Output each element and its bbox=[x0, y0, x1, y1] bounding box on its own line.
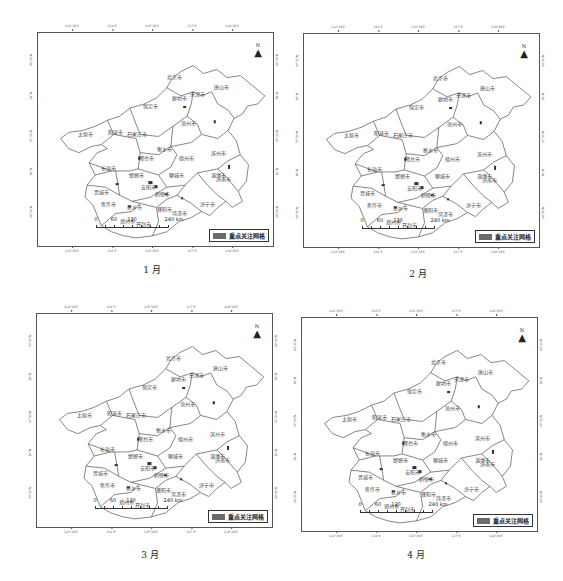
city-label: 新乡市 bbox=[391, 487, 406, 494]
latitude-tick: 34°30'N bbox=[539, 491, 543, 503]
longitude-tick: 118°30'E bbox=[489, 534, 503, 538]
city-label: 德州市 bbox=[443, 438, 458, 445]
latitude-tick: 36°N bbox=[274, 449, 278, 457]
latitude-tick: 37°30'N bbox=[275, 130, 279, 142]
city-label: 阳泉市 bbox=[372, 412, 387, 419]
city-label: 安阳市 bbox=[407, 184, 422, 191]
longitude-tick: 112°30'E bbox=[331, 25, 345, 29]
city-label: 天津市 bbox=[189, 370, 204, 377]
latitude-tick: 40°30'N bbox=[29, 54, 33, 66]
latitude-tick: 34°30'N bbox=[29, 206, 33, 218]
scale-tick-label: 60 bbox=[110, 497, 116, 503]
longitude-tick: 114°E bbox=[373, 25, 382, 29]
north-arrow: N ▲ bbox=[517, 328, 527, 343]
city-label: 济南市 bbox=[482, 175, 497, 182]
scale-tick-label: 60 bbox=[375, 501, 381, 507]
city-label: 天津市 bbox=[456, 90, 471, 97]
city-label: 长治市 bbox=[100, 445, 115, 452]
longitude-tick: 115°30'E bbox=[409, 534, 423, 538]
longitude-tick: 112°30'E bbox=[329, 309, 343, 313]
city-label: 济南市 bbox=[480, 459, 495, 466]
longitude-tick: 118°30'E bbox=[489, 309, 503, 313]
latitude-tick: 40°30'N bbox=[275, 54, 279, 66]
city-label: 聊城市 bbox=[169, 170, 184, 177]
latitude-tick: 39°N bbox=[274, 373, 278, 381]
north-arrow-icon: ▲ bbox=[253, 48, 263, 58]
city-label: 晋城市 bbox=[93, 468, 108, 475]
city-label: 焦作市 bbox=[100, 481, 115, 488]
longitude-tick: 115°30'E bbox=[411, 25, 425, 29]
city-label: 济宁市 bbox=[199, 481, 214, 488]
latitude-tick: 34°30'N bbox=[275, 206, 279, 218]
city-label: 聊城市 bbox=[433, 455, 448, 462]
city-label: 保定市 bbox=[409, 103, 424, 110]
city-label: 济南市 bbox=[216, 174, 231, 181]
city-label: 保定市 bbox=[142, 383, 157, 390]
legend-label: 重点关注网格 bbox=[228, 512, 264, 521]
latitude-tick: 40°30'N bbox=[295, 55, 299, 67]
latitude-tick: 37°30'N bbox=[293, 415, 297, 427]
city-label: 滨州市 bbox=[477, 150, 492, 157]
city-label: 长治市 bbox=[365, 449, 380, 456]
city-label: 晋城市 bbox=[94, 187, 109, 194]
city-label: 濮阳市 bbox=[157, 204, 172, 211]
latitude-tick: 36°N bbox=[28, 449, 32, 457]
city-label: 濮阳市 bbox=[156, 485, 171, 492]
longitude-tick: 117°E bbox=[186, 530, 195, 534]
city-label: 邢台市 bbox=[138, 434, 153, 441]
city-label: 菏泽市 bbox=[438, 209, 453, 216]
latitude-tick: 39°N bbox=[541, 93, 545, 101]
map-frame: 北京市唐山市天津市廊坊市保定市太原市阳泉市石家庄市沧州市衡水市邢台市德州市滨州市… bbox=[303, 33, 540, 248]
city-label: 焦作市 bbox=[365, 485, 380, 492]
north-arrow-icon: ▲ bbox=[517, 333, 527, 343]
city-label: 安阳市 bbox=[141, 183, 156, 190]
latitude-tick: 34°30'N bbox=[274, 487, 278, 499]
scale-tick-label: 120 bbox=[127, 216, 137, 222]
city-label: 濮阳市 bbox=[423, 205, 438, 212]
city-label: 保定市 bbox=[143, 102, 158, 109]
latitude-tick: 37°30'N bbox=[541, 131, 545, 143]
city-label: 邯郸市 bbox=[129, 170, 144, 177]
city-label: 阳泉市 bbox=[107, 408, 122, 415]
city-label: 阳泉市 bbox=[108, 127, 123, 134]
city-label: 滨州市 bbox=[475, 434, 490, 441]
scale-tick-label: 240 km bbox=[429, 501, 448, 507]
latitude-tick: 39°N bbox=[28, 373, 32, 381]
latitude-tick: 37°30'N bbox=[295, 131, 299, 143]
city-label: 新乡市 bbox=[126, 483, 141, 490]
city-label: 德州市 bbox=[179, 153, 194, 160]
latitude-tick: 36°N bbox=[539, 453, 543, 461]
longitude-tick: 114°E bbox=[371, 309, 380, 313]
city-label: 长治市 bbox=[367, 165, 382, 172]
longitude-tick: 112°30'E bbox=[65, 24, 79, 28]
legend: 重点关注网格 bbox=[473, 514, 533, 527]
legend: 重点关注网格 bbox=[475, 230, 535, 243]
city-label: 聊城市 bbox=[168, 451, 183, 458]
city-label: 唐山市 bbox=[214, 83, 229, 90]
latitude-tick: 40°30'N bbox=[274, 335, 278, 347]
latitude-tick: 40°30'N bbox=[541, 55, 545, 67]
city-label: 太原市 bbox=[77, 411, 92, 418]
city-label: 邯郸市 bbox=[128, 451, 143, 458]
legend-swatch bbox=[477, 518, 490, 524]
legend-swatch bbox=[213, 233, 226, 239]
city-label: 邯郸市 bbox=[395, 171, 410, 178]
city-label: 鹤壁市 bbox=[421, 190, 436, 197]
longitude-tick: 114°E bbox=[107, 24, 116, 28]
city-label: 济宁市 bbox=[200, 200, 215, 207]
longitude-tick: 115°30'E bbox=[409, 309, 423, 313]
city-label: 沧州市 bbox=[180, 400, 195, 407]
panel-caption: 3 月 bbox=[141, 548, 159, 561]
city-label: 衡水市 bbox=[423, 146, 438, 153]
latitude-tick: 39°N bbox=[29, 92, 33, 100]
legend: 重点关注网格 bbox=[209, 229, 269, 242]
city-label: 廊坊市 bbox=[171, 374, 186, 381]
region-map bbox=[304, 34, 539, 247]
city-label: 太原市 bbox=[344, 131, 359, 138]
longitude-tick: 118°30'E bbox=[225, 24, 239, 28]
city-label: 菏泽市 bbox=[172, 208, 187, 215]
city-label: 沧州市 bbox=[181, 119, 196, 126]
scale-tick-label: 120 bbox=[126, 497, 136, 503]
scale-bar: 060120240 km bbox=[360, 501, 450, 515]
city-label: 聊城市 bbox=[435, 171, 450, 178]
